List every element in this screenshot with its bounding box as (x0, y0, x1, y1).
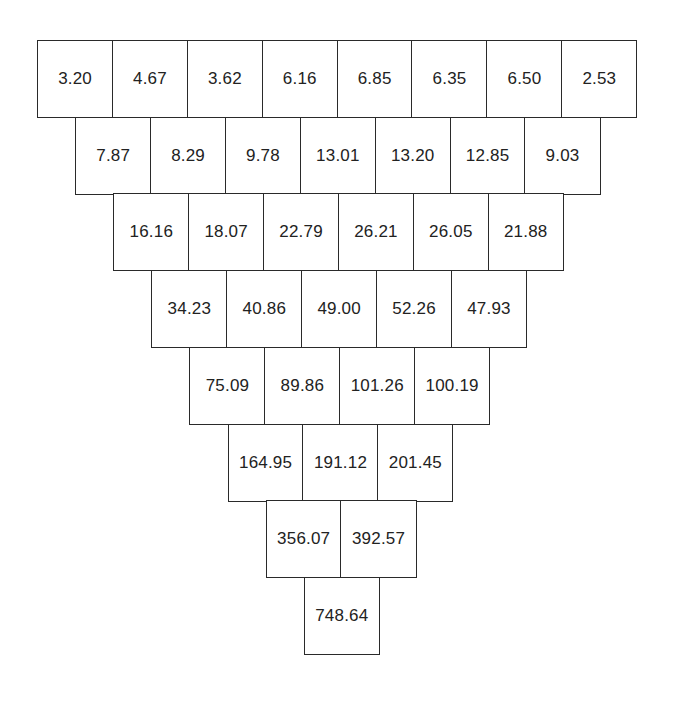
pyramid-cell: 75.09 (189, 347, 265, 425)
pyramid-cell: 6.16 (262, 40, 338, 118)
pyramid-cell: 164.95 (228, 424, 304, 502)
pyramid-cell: 49.00 (301, 270, 377, 348)
pyramid-cell: 6.85 (337, 40, 413, 118)
pyramid-cell: 101.26 (339, 347, 415, 425)
pyramid-row-7: 356.07392.57 (266, 500, 416, 578)
pyramid-cell: 9.03 (524, 117, 600, 195)
pyramid-cell: 201.45 (377, 424, 453, 502)
pyramid-row-1: 3.204.673.626.166.856.356.502.53 (37, 40, 636, 118)
pyramid-cell: 6.50 (486, 40, 562, 118)
pyramid-cell: 47.93 (451, 270, 527, 348)
pyramid-cell: 52.26 (376, 270, 452, 348)
pyramid-cell: 22.79 (263, 193, 339, 271)
pyramid-cell: 392.57 (340, 500, 416, 578)
pyramid-cell: 4.67 (112, 40, 188, 118)
pyramid-cell: 89.86 (264, 347, 340, 425)
pyramid-cell: 40.86 (226, 270, 302, 348)
pyramid-cell: 2.53 (561, 40, 637, 118)
pyramid-cell: 748.64 (304, 577, 380, 655)
pyramid-cell: 3.20 (37, 40, 113, 118)
pyramid-cell: 3.62 (187, 40, 263, 118)
pyramid-cell: 21.88 (488, 193, 564, 271)
pyramid-cell: 6.35 (411, 40, 487, 118)
pyramid-cell: 8.29 (150, 117, 226, 195)
pyramid-row-5: 75.0989.86101.26100.19 (189, 347, 489, 425)
pyramid-cell: 26.21 (338, 193, 414, 271)
pyramid-cell: 18.07 (188, 193, 264, 271)
pyramid-cell: 356.07 (266, 500, 342, 578)
pyramid-cell: 26.05 (413, 193, 489, 271)
pyramid-row-3: 16.1618.0722.7926.2126.0521.88 (113, 193, 562, 271)
pyramid-row-2: 7.878.299.7813.0113.2012.859.03 (75, 117, 599, 195)
pyramid-cell: 100.19 (414, 347, 490, 425)
number-pyramid: 3.204.673.626.166.856.356.502.537.878.29… (0, 0, 685, 713)
pyramid-cell: 191.12 (302, 424, 378, 502)
pyramid-cell: 34.23 (151, 270, 227, 348)
pyramid-cell: 13.20 (375, 117, 451, 195)
pyramid-cell: 7.87 (75, 117, 151, 195)
pyramid-cell: 9.78 (225, 117, 301, 195)
pyramid-row-4: 34.2340.8649.0052.2647.93 (151, 270, 525, 348)
pyramid-row-6: 164.95191.12201.45 (228, 424, 453, 502)
pyramid-cell: 13.01 (300, 117, 376, 195)
pyramid-cell: 12.85 (450, 117, 526, 195)
pyramid-row-8: 748.64 (304, 577, 379, 655)
pyramid-cell: 16.16 (113, 193, 189, 271)
